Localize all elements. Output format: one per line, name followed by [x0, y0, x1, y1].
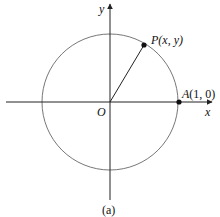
point-a-label: A(1, 0) [181, 87, 215, 101]
radius-op [110, 45, 144, 102]
y-axis-label: y [98, 2, 105, 16]
point-p [141, 42, 146, 47]
origin-label: O [97, 105, 106, 119]
x-axis-label: x [204, 105, 211, 119]
unit-circle-diagram: y x O P(x, y) A(1, 0) (a) [0, 0, 220, 217]
point-p-label: P(x, y) [150, 33, 183, 47]
point-a [176, 99, 181, 104]
caption: (a) [102, 203, 115, 217]
